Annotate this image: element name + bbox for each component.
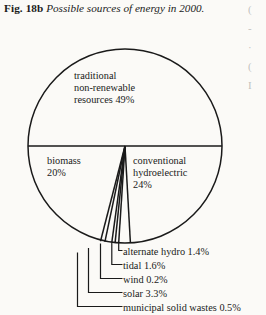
leader-line-solar (89, 248, 123, 293)
figure-page: Fig. 18b Possible sources of energy in 2… (0, 0, 266, 315)
pie-callout-solar: solar 3.3% (123, 289, 167, 299)
pie-label-traditional-non-renewable: traditional non-renewable resources 49% (74, 70, 135, 106)
pie-callout-alternate-hydro: alternate hydro 1.4% (123, 247, 209, 257)
pie-callout-tidal: tidal 1.6% (123, 261, 165, 271)
edge-fragment: ( (248, 57, 266, 76)
edge-fragment: ( (248, 0, 266, 19)
edge-fragment: I (248, 76, 266, 95)
page-edge-fragments: ( - · ( I (248, 0, 266, 96)
pie-callout-municipal-solid-wastes: municipal solid wastes 0.5% (123, 303, 241, 313)
pie-label-conventional-hydroelectric: conventional hydroelectric 24% (133, 155, 187, 191)
pie-callout-wind: wind 0.2% (123, 275, 168, 285)
edge-fragment: - (248, 19, 266, 38)
leader-line-tidal (112, 242, 123, 264)
edge-fragment: · (248, 38, 266, 57)
leader-line-alternate-hydro (119, 243, 123, 251)
pie-label-biomass: biomass 20% (47, 155, 81, 179)
